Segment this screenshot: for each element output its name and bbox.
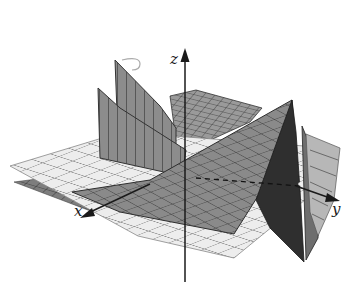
rotation-arrow-icon (122, 59, 140, 70)
z-axis-arrowhead (181, 48, 190, 62)
x-axis-label: x (74, 202, 83, 220)
z-axis-label: z (169, 50, 178, 68)
intersection-point (298, 182, 302, 186)
surface-plot-figure: z x y (0, 0, 351, 292)
y-axis-label: y (331, 200, 341, 218)
